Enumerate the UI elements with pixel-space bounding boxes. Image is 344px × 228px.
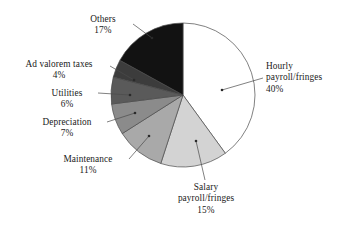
slice-label-hourly-line1: Hourly [266,61,342,72]
leader-dot-salary [195,140,198,143]
leader-dot-maintenance [148,135,151,138]
slice-label-others-value: 17% [76,25,130,36]
pie-slices [111,23,255,167]
slice-label-depreciation-value: 7% [28,128,106,139]
slice-label-utilities-text: Utilities [38,88,96,99]
leader-dot-others [151,37,154,40]
slice-label-salary-line1: Salary [152,182,260,193]
slice-label-advalorem-value: 4% [10,70,108,81]
slice-label-salary-value: 15% [152,205,260,216]
slice-label-maintenance-text: Maintenance [48,154,128,165]
slice-label-depreciation: Depreciation 7% [28,117,106,140]
slice-label-utilities: Utilities 6% [38,88,96,111]
leader-dot-utilities [129,94,132,97]
slice-label-salary-payroll-fringes: Salary payroll/fringes 15% [152,182,260,216]
slice-label-others: Others 17% [76,14,130,37]
slice-label-ad-valorem-taxes: Ad valorem taxes 4% [10,59,108,82]
leader-dot-hourly [221,89,224,92]
slice-label-hourly-payroll-fringes: Hourly payroll/fringes 40% [266,61,342,95]
leader-dot-advalorem [133,79,136,82]
slice-label-depreciation-text: Depreciation [28,117,106,128]
slice-label-salary-line2: payroll/fringes [152,193,260,204]
slice-label-hourly-value: 40% [266,84,342,95]
pie-chart-figure: Hourly payroll/fringes 40% Salary payrol… [0,0,344,228]
slice-label-utilities-value: 6% [38,99,96,110]
slice-label-others-text: Others [76,14,130,25]
slice-label-advalorem-text: Ad valorem taxes [10,59,108,70]
slice-label-maintenance-value: 11% [48,165,128,176]
slice-label-hourly-line2: payroll/fringes [266,72,342,83]
slice-label-maintenance: Maintenance 11% [48,154,128,177]
leader-dot-depreciation [134,112,137,115]
